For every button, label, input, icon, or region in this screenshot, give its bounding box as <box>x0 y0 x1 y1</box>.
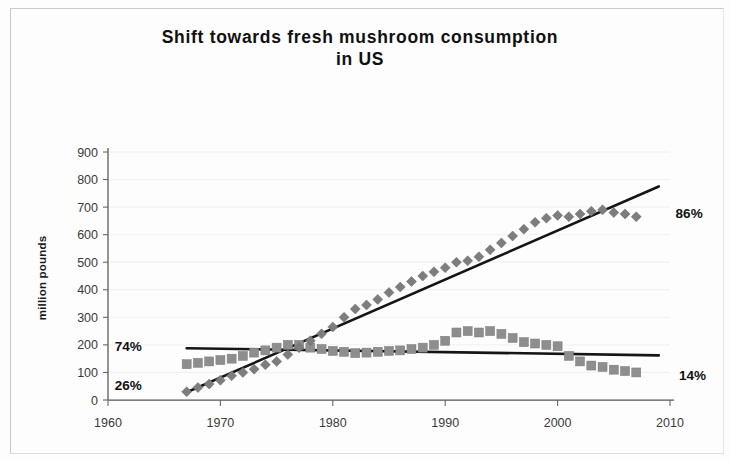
data-point-fresh <box>182 387 192 397</box>
data-point-fresh <box>384 288 394 298</box>
data-point-processed <box>474 328 483 337</box>
data-point-fresh <box>406 277 416 287</box>
data-point-fresh <box>631 212 641 222</box>
data-point-processed <box>519 338 528 347</box>
data-point-fresh <box>530 217 540 227</box>
chart-page: Shift towards fresh mushroom consumption… <box>0 0 730 462</box>
gridlines <box>108 152 670 372</box>
x-tick-label: 1970 <box>206 416 234 430</box>
x-tick-label: 2010 <box>656 416 684 430</box>
x-tick-label: 1960 <box>94 416 122 430</box>
data-point-fresh <box>564 212 574 222</box>
data-point-fresh <box>373 294 383 304</box>
data-point-processed <box>531 339 540 348</box>
data-point-processed <box>576 357 585 366</box>
data-point-fresh <box>272 356 282 366</box>
data-point-processed <box>250 348 259 357</box>
data-point-fresh <box>418 271 428 281</box>
data-point-processed <box>261 346 270 355</box>
data-point-processed <box>632 368 641 377</box>
x-tick-label: 1990 <box>431 416 459 430</box>
data-point-fresh <box>620 209 630 219</box>
data-point-processed <box>429 340 438 349</box>
data-point-fresh <box>609 208 619 218</box>
data-point-processed <box>609 365 618 374</box>
data-point-fresh <box>553 210 563 220</box>
data-point-processed <box>452 328 461 337</box>
data-point-fresh <box>463 256 473 266</box>
y-tick-label: 0 <box>91 394 98 408</box>
data-point-fresh <box>317 329 327 339</box>
data-point-fresh <box>429 267 439 277</box>
data-point-fresh <box>193 383 203 393</box>
y-tick-label: 700 <box>77 201 98 215</box>
percent-annotations: 74%26%86%14% <box>115 206 706 393</box>
data-point-processed <box>407 345 416 354</box>
data-point-processed <box>328 346 337 355</box>
data-point-processed <box>418 343 427 352</box>
data-point-fresh <box>451 257 461 267</box>
data-point-processed <box>508 334 517 343</box>
y-tick-label: 100 <box>77 366 98 380</box>
data-point-processed <box>216 356 225 365</box>
data-point-processed <box>373 347 382 356</box>
data-point-fresh <box>508 231 518 241</box>
pct-26: 26% <box>115 378 142 393</box>
y-axis-ticks: 0100200300400500600700800900 <box>77 146 108 408</box>
data-point-fresh <box>519 224 529 234</box>
data-point-fresh <box>575 209 585 219</box>
data-point-fresh <box>395 282 405 292</box>
data-point-processed <box>193 358 202 367</box>
data-point-fresh <box>541 213 551 223</box>
data-point-processed <box>564 351 573 360</box>
y-tick-label: 800 <box>77 173 98 187</box>
data-point-processed <box>227 354 236 363</box>
data-point-processed <box>441 336 450 345</box>
data-point-fresh <box>440 263 450 273</box>
y-tick-label: 600 <box>77 228 98 242</box>
data-point-processed <box>283 340 292 349</box>
data-point-fresh <box>496 238 506 248</box>
data-point-processed <box>317 345 326 354</box>
data-point-processed <box>351 349 360 358</box>
data-point-processed <box>553 342 562 351</box>
data-point-fresh <box>485 245 495 255</box>
pct-14: 14% <box>679 368 706 383</box>
data-point-processed <box>463 327 472 336</box>
data-point-processed <box>621 367 630 376</box>
x-axis-ticks: 196019701980199020002010 <box>94 400 684 430</box>
data-point-fresh <box>362 300 372 310</box>
data-point-processed <box>205 357 214 366</box>
data-point-fresh <box>350 304 360 314</box>
data-point-processed <box>542 340 551 349</box>
data-point-fresh <box>260 360 270 370</box>
data-point-processed <box>238 351 247 360</box>
pct-74: 74% <box>115 339 142 354</box>
data-point-processed <box>587 361 596 370</box>
y-tick-label: 300 <box>77 311 98 325</box>
data-point-processed <box>396 346 405 355</box>
x-tick-label: 1980 <box>319 416 347 430</box>
data-point-processed <box>486 327 495 336</box>
data-point-processed <box>497 329 506 338</box>
data-point-fresh <box>474 252 484 262</box>
series-fresh-markers <box>182 205 642 397</box>
pct-86: 86% <box>676 206 703 221</box>
chart-plot: 0100200300400500600700800900 19601970198… <box>0 0 730 462</box>
y-axis-title: million pounds <box>36 236 48 321</box>
y-tick-label: 900 <box>77 146 98 160</box>
y-tick-label: 500 <box>77 256 98 270</box>
data-point-processed <box>182 360 191 369</box>
y-tick-label: 200 <box>77 338 98 352</box>
data-point-processed <box>385 346 394 355</box>
data-point-processed <box>272 343 281 352</box>
y-tick-label: 400 <box>77 283 98 297</box>
data-point-processed <box>598 362 607 371</box>
data-point-processed <box>362 348 371 357</box>
data-point-processed <box>340 347 349 356</box>
x-tick-label: 2000 <box>544 416 572 430</box>
